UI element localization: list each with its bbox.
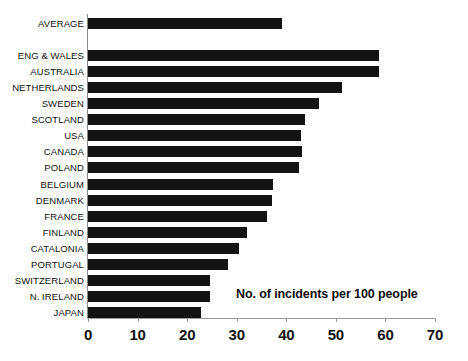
category-label: JAPAN — [54, 305, 84, 321]
axis-tick — [138, 318, 139, 322]
category-label: SWITZERLAND — [15, 273, 84, 289]
axis-tick-label: 70 — [415, 326, 455, 343]
chart-annotation: No. of incidents per 100 people — [236, 287, 418, 301]
bar-row: ENG & WALES — [0, 48, 468, 64]
bar-row: SCOTLAND — [0, 112, 468, 128]
axis-tick-label: 50 — [316, 326, 356, 343]
bar — [88, 114, 305, 125]
category-label: SCOTLAND — [31, 112, 84, 128]
bar — [88, 227, 247, 238]
category-label: AVERAGE — [38, 16, 84, 32]
bar — [88, 50, 379, 61]
bar — [88, 211, 267, 222]
bar — [88, 130, 301, 141]
bar — [88, 162, 299, 173]
category-label: CANADA — [44, 144, 84, 160]
category-label: AUSTRALIA — [30, 64, 84, 80]
bar-chart: AVERAGEENG & WALESAUSTRALIANETHERLANDSSW… — [0, 0, 468, 361]
bar — [88, 275, 210, 286]
category-label: BELGIUM — [41, 177, 84, 193]
category-label: FRANCE — [44, 209, 84, 225]
bar — [88, 18, 282, 29]
bar-row: DENMARK — [0, 193, 468, 209]
bar-row: USA — [0, 128, 468, 144]
bar-row: BELGIUM — [0, 177, 468, 193]
bar — [88, 259, 228, 270]
axis-tick-label: 30 — [217, 326, 257, 343]
bar — [88, 82, 342, 93]
category-label: NETHERLANDS — [12, 80, 84, 96]
axis-tick-label: 60 — [365, 326, 405, 343]
category-label: DENMARK — [36, 193, 84, 209]
bar-row: NETHERLANDS — [0, 80, 468, 96]
axis-tick — [237, 318, 238, 322]
axis-tick — [187, 318, 188, 322]
axis-tick-label: 20 — [167, 326, 207, 343]
bar — [88, 146, 302, 157]
category-label: USA — [64, 128, 84, 144]
bar — [88, 243, 239, 254]
bar-row: AVERAGE — [0, 16, 468, 32]
category-label: CATALONIA — [31, 241, 84, 257]
bar-row: AUSTRALIA — [0, 64, 468, 80]
bar-row: FINLAND — [0, 225, 468, 241]
category-label: POLAND — [44, 160, 84, 176]
category-label: FINLAND — [43, 225, 84, 241]
bar — [88, 179, 273, 190]
category-label: ENG & WALES — [18, 48, 84, 64]
axis-tick — [385, 318, 386, 322]
bar-row: CATALONIA — [0, 241, 468, 257]
axis-tick — [286, 318, 287, 322]
category-label: N. IRELAND — [30, 289, 84, 305]
bar-row: POLAND — [0, 160, 468, 176]
bar — [88, 291, 210, 302]
axis-tick — [88, 318, 89, 322]
bar-row: CANADA — [0, 144, 468, 160]
bar — [88, 66, 379, 77]
axis-tick-label: 10 — [118, 326, 158, 343]
bar-row-spacer — [0, 32, 468, 48]
bar — [88, 307, 201, 318]
bar — [88, 98, 319, 109]
bar-row: JAPAN — [0, 305, 468, 321]
bar — [88, 195, 272, 206]
axis-tick — [336, 318, 337, 322]
axis-tick — [435, 318, 436, 322]
bar-row: SWEDEN — [0, 96, 468, 112]
axis-tick-label: 40 — [266, 326, 306, 343]
bar-row: FRANCE — [0, 209, 468, 225]
axis-tick-label: 0 — [68, 326, 108, 343]
bar-row: PORTUGAL — [0, 257, 468, 273]
category-label: SWEDEN — [42, 96, 84, 112]
category-label: PORTUGAL — [31, 257, 84, 273]
